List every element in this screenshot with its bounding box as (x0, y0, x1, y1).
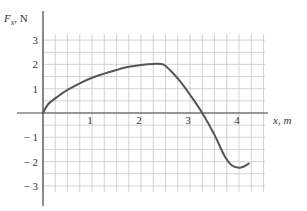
y-tick-label: − 3 (24, 180, 39, 192)
x-tick-label: 3 (185, 114, 191, 126)
y-axis-title: Fx, N (3, 12, 28, 27)
x-tick-label: 4 (234, 114, 240, 126)
x-tick-labels: 1234 (87, 114, 240, 126)
y-tick-label: − 2 (24, 156, 38, 168)
y-tick-label: 3 (33, 34, 39, 46)
y-tick-label: − 1 (24, 131, 38, 143)
x-tick-label: 1 (87, 114, 93, 126)
y-tick-label: 1 (33, 83, 39, 95)
x-axis-title: x, m (272, 114, 291, 126)
x-tick-label: 2 (136, 114, 142, 126)
y-tick-label: 2 (33, 58, 39, 70)
force-vs-position-chart: 1234 321− 1− 2− 3 Fx, N x, m (0, 0, 307, 211)
force-curve (43, 64, 249, 168)
